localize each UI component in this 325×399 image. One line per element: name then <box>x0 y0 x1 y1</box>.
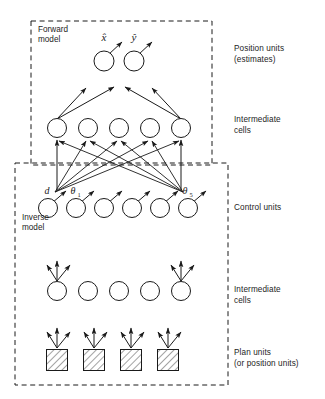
forward-model-label-line1: Forward <box>38 25 68 35</box>
row-label-line1: Intermediate <box>234 285 281 296</box>
plan-unit-node[interactable] <box>84 350 105 371</box>
row-label-line2: (estimates) <box>234 55 284 66</box>
plan-unit-node[interactable] <box>47 350 68 371</box>
inverse-model-label-line1: Inverse <box>22 213 49 223</box>
row-label-intermediate-cells-top: Intermediate cells <box>234 115 281 136</box>
plan-units-layer <box>47 350 179 371</box>
intermediate-cell-node[interactable] <box>48 119 67 138</box>
inverse-model-label-line2: model <box>22 223 49 233</box>
y-hat-label: ŷ <box>131 31 137 43</box>
row-label-control-units: Control units <box>234 203 281 214</box>
row-label-plan-units: Plan units (or position units) <box>234 348 299 369</box>
intermediate-cell-node[interactable] <box>172 119 191 138</box>
row-label-line1: Control units <box>234 203 281 214</box>
row-label-line1: Intermediate <box>234 115 281 126</box>
forward-model-label-line2: model <box>38 35 68 45</box>
forward-model-label: Forward model <box>38 25 68 45</box>
position-unit-node[interactable] <box>124 51 144 71</box>
row-label-position-units: Position units (estimates) <box>234 44 284 65</box>
control-unit-node[interactable] <box>123 199 142 218</box>
intermediate-cells-bottom-layer <box>48 282 191 301</box>
position-units-layer <box>94 51 144 71</box>
theta-5-label: θ <box>183 185 188 196</box>
bottom-intermediate-arrow-cluster-left <box>47 261 70 281</box>
intermediate-to-position-arrows <box>57 87 181 119</box>
plan-unit-arrow-cluster-2 <box>84 328 107 348</box>
intermediate-cell-node[interactable] <box>79 119 98 138</box>
row-label-intermediate-cells-bottom: Intermediate cells <box>234 285 281 306</box>
right-fanout-arrows <box>59 141 183 192</box>
control-unit-node[interactable] <box>67 199 86 218</box>
plan-unit-arrow-cluster-4 <box>158 328 181 348</box>
plan-unit-arrow-cluster-1 <box>47 328 70 348</box>
intermediate-cell-node[interactable] <box>48 282 67 301</box>
plan-unit-node[interactable] <box>121 350 142 371</box>
row-label-line1: Position units <box>234 44 284 55</box>
row-label-line1: Plan units <box>234 348 299 359</box>
row-label-line2: (or position units) <box>234 359 299 370</box>
intermediate-cells-top-layer <box>48 119 191 138</box>
bottom-intermediate-arrow-cluster-right <box>171 261 194 281</box>
theta-5-subscript: 5 <box>189 191 192 198</box>
row-label-line2: cells <box>234 126 281 137</box>
intermediate-cell-node[interactable] <box>141 119 160 138</box>
d-label: d <box>45 185 51 196</box>
x-hat-label: x̂ <box>101 31 107 43</box>
control-unit-node[interactable] <box>179 199 198 218</box>
plan-unit-arrow-cluster-3 <box>121 328 144 348</box>
control-units-layer <box>39 199 198 218</box>
intermediate-cell-node[interactable] <box>141 282 160 301</box>
inverse-model-label: Inverse model <box>22 213 49 233</box>
intermediate-cell-node[interactable] <box>110 282 129 301</box>
theta-1-label: θ <box>71 185 76 196</box>
plan-unit-node[interactable] <box>158 350 179 371</box>
intermediate-cell-node[interactable] <box>172 282 191 301</box>
network-diagram-figure: x̂ ŷ d θ 1 θ 5 Forward model Inverse mo… <box>0 0 325 399</box>
intermediate-cell-node[interactable] <box>110 119 129 138</box>
row-label-line2: cells <box>234 296 281 307</box>
theta-1-subscript: 1 <box>77 191 80 198</box>
position-unit-node[interactable] <box>94 51 114 71</box>
control-unit-node[interactable] <box>151 199 170 218</box>
control-unit-node[interactable] <box>95 199 114 218</box>
intermediate-cell-node[interactable] <box>79 282 98 301</box>
